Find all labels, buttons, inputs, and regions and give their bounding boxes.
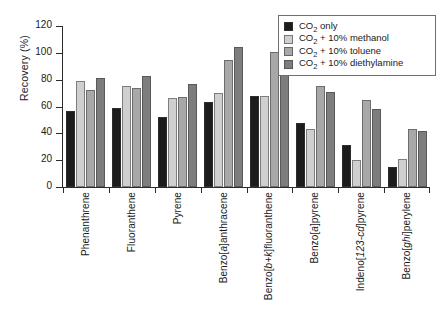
y-tick-label: 120 [35, 19, 52, 30]
category-label-cell: Benzo[ghi]perylene [384, 192, 430, 318]
y-tick: 40 [56, 133, 62, 134]
bar-group [201, 26, 247, 187]
bar [372, 109, 381, 187]
bar [224, 60, 233, 187]
legend-item: CO2 + 10% methanol [284, 33, 430, 45]
bar [142, 76, 151, 187]
y-axis-label: Recovery (%) [18, 8, 30, 128]
category-label: Benzo[a]pyrene [309, 192, 320, 263]
bar [296, 123, 305, 187]
category-label-cell: Benzo[b+k]fluoranthene [247, 192, 293, 318]
y-tick-label: 60 [41, 100, 52, 111]
bar [342, 145, 351, 187]
y-tick: 60 [56, 107, 62, 108]
y-tick: 20 [56, 160, 62, 161]
category-labels: PhenanthreneFluoranthenePyreneBenzo[a]an… [63, 192, 430, 318]
bar-chart: Recovery (%) 020406080100120 Phenanthren… [0, 0, 443, 321]
legend-item: CO2 + 10% diethylamine [284, 58, 430, 70]
bar [260, 96, 269, 187]
bar [388, 167, 397, 187]
bar [76, 81, 85, 187]
y-tick-label: 100 [35, 46, 52, 57]
bar [316, 86, 325, 187]
y-tick-label: 20 [41, 153, 52, 164]
category-label: Benzo[a]anthracene [218, 192, 229, 283]
legend-swatch-icon [284, 47, 293, 56]
bar [66, 111, 75, 187]
category-label: Phenanthrene [80, 192, 91, 256]
y-tick-label: 0 [46, 180, 52, 191]
bar-group [109, 26, 155, 187]
bar [188, 84, 197, 187]
chart-legend: CO2 onlyCO2 + 10% methanolCO2 + 10% tolu… [278, 15, 436, 76]
category-label-cell: Benzo[a]pyrene [292, 192, 338, 318]
bar [214, 93, 223, 187]
bar [234, 47, 243, 187]
category-label-cell: Benzo[a]anthracene [201, 192, 247, 318]
bar [408, 129, 417, 187]
legend-item: CO2 + 10% toluene [284, 46, 430, 58]
y-tick-label: 80 [41, 73, 52, 84]
legend-item: CO2 only [284, 21, 430, 33]
category-label-cell: Phenanthrene [63, 192, 109, 318]
bar [204, 102, 213, 187]
bar [132, 88, 141, 187]
legend-swatch-icon [284, 35, 293, 44]
bar [306, 129, 315, 187]
category-label-cell: Indeno[123-cd]pyrene [338, 192, 384, 318]
bar [326, 92, 335, 187]
bar [158, 117, 167, 187]
legend-swatch-icon [284, 22, 293, 31]
bar [168, 98, 177, 187]
bar-group [63, 26, 109, 187]
bar [178, 97, 187, 187]
bar [362, 100, 371, 187]
category-label: Pyrene [172, 192, 183, 224]
bar [112, 108, 121, 187]
y-tick: 120 [56, 26, 62, 27]
bar [86, 90, 95, 187]
bar [418, 131, 427, 187]
category-label: Fluoranthene [126, 192, 137, 252]
category-label: Benzo[b+k]fluoranthene [263, 192, 274, 300]
category-label-cell: Fluoranthene [109, 192, 155, 318]
bar [122, 86, 131, 187]
category-label: Indeno[123-cd]pyrene [355, 192, 366, 291]
category-label-cell: Pyrene [155, 192, 201, 318]
legend-label: CO2 + 10% diethylamine [299, 57, 403, 71]
bar [352, 160, 361, 187]
bar [398, 159, 407, 187]
y-tick-label: 40 [41, 126, 52, 137]
bar [96, 78, 105, 187]
y-tick: 100 [56, 53, 62, 54]
y-tick: 0 [56, 187, 62, 188]
bar-group [155, 26, 201, 187]
y-tick: 80 [56, 80, 62, 81]
category-label: Benzo[ghi]perylene [401, 192, 412, 279]
legend-swatch-icon [284, 60, 293, 69]
bar [250, 96, 259, 187]
